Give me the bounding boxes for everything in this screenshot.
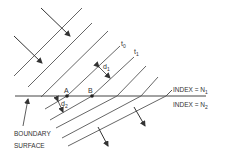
- label-index-n2: INDEX = N2: [173, 101, 208, 110]
- label-boundary: BOUNDARY: [14, 130, 51, 137]
- refracted-ray-arrow: [98, 127, 108, 146]
- label-index-n1: INDEX = N1: [173, 86, 208, 95]
- point-a: [65, 94, 69, 98]
- label-t1: t1: [134, 48, 139, 57]
- refraction-diagram: A B t0 t1 d1 d2 INDEX = N1 INDEX = N2 BO…: [0, 0, 229, 163]
- label-b: B: [88, 87, 93, 94]
- label-d1: d1: [103, 63, 110, 72]
- label-a: A: [64, 87, 69, 94]
- label-d2: d2: [61, 100, 68, 109]
- point-b: [90, 94, 94, 98]
- incident-wavefronts: [14, 8, 172, 97]
- incident-ray-arrow: [14, 36, 42, 63]
- label-t0: t0: [121, 40, 126, 49]
- incident-ray-arrow: [41, 8, 70, 36]
- label-surface: SURFACE: [14, 142, 45, 149]
- boundary-pointer-arrow: [23, 99, 28, 126]
- refracted-wavefronts: [45, 90, 172, 146]
